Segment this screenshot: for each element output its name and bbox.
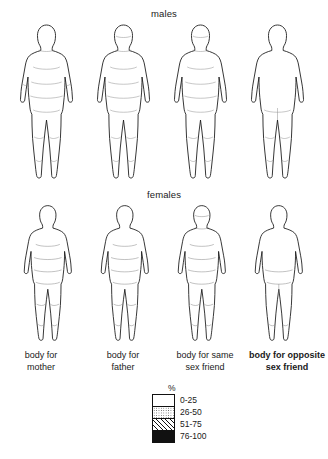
legend-swatch-26-50 xyxy=(153,407,174,419)
caption-opposite-sex-friend-line1: body for opposite xyxy=(246,350,328,362)
body-figure-females-father xyxy=(99,203,151,344)
legend-label-51-75: 51-75 xyxy=(180,418,206,430)
body-figure-males-father xyxy=(95,22,152,182)
body-figure-females-opposite-sex-friend xyxy=(253,203,305,344)
legend-swatch-51-75 xyxy=(153,419,174,431)
body-figure-females-mother xyxy=(22,203,74,344)
legend-label-76-100: 76-100 xyxy=(180,430,206,442)
caption-mother-line1: body for xyxy=(0,350,82,362)
caption-same-sex-friend-line1: body for same xyxy=(164,350,246,362)
legend-label-column: 0-25 26-50 51-75 76-100 xyxy=(180,394,206,442)
caption-same-sex-friend: body for same sex friend xyxy=(164,350,246,373)
caption-mother-line2: mother xyxy=(0,362,82,374)
legend-label-0-25: 0-25 xyxy=(180,394,206,406)
figure-group-males xyxy=(18,22,306,182)
row-label-females: females xyxy=(0,189,328,200)
legend-body: 0-25 26-50 51-75 76-100 xyxy=(132,394,262,443)
body-figure-males-opposite-sex-friend xyxy=(249,22,306,182)
figure-group-females xyxy=(22,203,305,344)
body-figure-females-same-sex-friend xyxy=(176,203,228,344)
legend-swatch-76-100 xyxy=(153,431,174,442)
caption-opposite-sex-friend-line2: sex friend xyxy=(246,362,328,374)
legend-label-26-50: 26-50 xyxy=(180,406,206,418)
legend-swatch-column xyxy=(152,394,175,443)
legend: % 0-25 26-50 51-75 76-100 xyxy=(132,383,262,443)
row-label-males: males xyxy=(0,8,328,19)
caption-mother: body for mother xyxy=(0,350,82,373)
caption-opposite-sex-friend: body for opposite sex friend xyxy=(246,350,328,373)
body-figure-males-mother xyxy=(18,22,75,182)
legend-swatch-0-25 xyxy=(153,395,174,407)
legend-unit-label: % xyxy=(168,383,262,393)
body-figure-males-same-sex-friend xyxy=(172,22,229,182)
caption-same-sex-friend-line2: sex friend xyxy=(164,362,246,374)
caption-father-line1: body for xyxy=(82,350,164,362)
caption-father-line2: father xyxy=(82,362,164,374)
caption-row: body for mother body for father body for… xyxy=(0,350,328,373)
caption-father: body for father xyxy=(82,350,164,373)
